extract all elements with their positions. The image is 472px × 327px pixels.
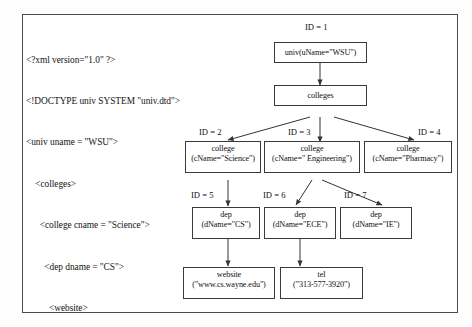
node-college-engineering-tag: college — [265, 144, 359, 154]
id-label-5: ID = 5 — [191, 190, 214, 200]
id-label-7: ID = 7 — [344, 190, 367, 200]
node-dep-ie[interactable]: dep (dName="IE") — [340, 207, 412, 239]
node-dep-cs-tag: dep — [193, 210, 259, 220]
node-dep-cs[interactable]: dep (dName="CS") — [192, 207, 260, 239]
node-college-engineering-attr: (cName=" Engineering") — [265, 154, 359, 164]
node-dep-ece-tag: dep — [265, 210, 335, 220]
node-univ[interactable]: univ(uName="WSU") — [274, 42, 367, 63]
edge-colleges-pharmacy — [334, 117, 414, 140]
node-dep-ie-tag: dep — [341, 210, 411, 220]
edge-engineering-depece — [296, 180, 312, 205]
node-dep-ece-attr: (dName="ECE") — [265, 220, 335, 230]
node-website[interactable]: website ("www.cs.wayne.edu") — [183, 267, 275, 299]
id-label-2: ID = 2 — [199, 127, 222, 137]
node-college-science-attr: (cName="Science") — [186, 154, 260, 164]
id-label-1: ID = 1 — [305, 22, 328, 32]
node-tel-value: ("313-577-3920") — [281, 280, 362, 290]
node-website-value: ("www.cs.wayne.edu") — [184, 280, 274, 290]
node-college-engineering[interactable]: college (cName=" Engineering") — [264, 141, 360, 173]
node-website-tag: website — [184, 270, 274, 280]
node-colleges[interactable]: colleges — [274, 85, 367, 106]
node-college-pharmacy-tag: college — [365, 144, 451, 154]
node-tel-tag: tel — [281, 270, 362, 280]
node-univ-label: univ(uName="WSU") — [275, 48, 366, 58]
node-college-pharmacy-attr: (cName="Pharmacy") — [365, 154, 451, 164]
node-dep-ece[interactable]: dep (dName="ECE") — [264, 207, 336, 239]
id-label-6: ID = 6 — [263, 190, 286, 200]
id-label-3: ID = 3 — [288, 127, 311, 137]
node-college-science-tag: college — [186, 144, 260, 154]
id-label-4: ID = 4 — [418, 127, 441, 137]
node-dep-ie-attr: (dName="IE") — [341, 220, 411, 230]
node-tel[interactable]: tel ("313-577-3920") — [280, 267, 363, 299]
node-college-science[interactable]: college (cName="Science") — [185, 141, 261, 173]
node-colleges-label: colleges — [275, 91, 366, 101]
dom-tree-diagram: ID = 1 ID = 2 ID = 3 ID = 4 ID = 5 ID = … — [0, 0, 472, 327]
node-college-pharmacy[interactable]: college (cName="Pharmacy") — [364, 141, 452, 173]
node-dep-cs-attr: (dName="CS") — [193, 220, 259, 230]
figure-canvas: <?xml version="1.0" ?> <!DOCTYPE univ SY… — [0, 0, 472, 327]
